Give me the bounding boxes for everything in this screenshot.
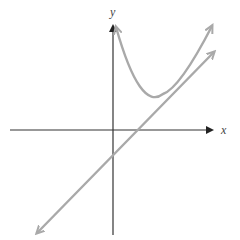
coordinate-plot: y x bbox=[0, 0, 240, 240]
y-axis-label: y bbox=[109, 5, 116, 19]
x-axis-label: x bbox=[220, 123, 227, 137]
parabola-curve bbox=[116, 26, 212, 97]
tangent-line bbox=[37, 52, 214, 233]
